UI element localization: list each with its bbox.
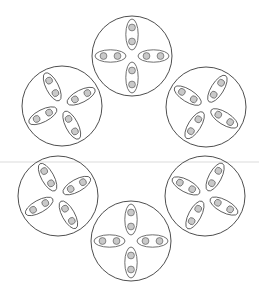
lobe-dot-0 [143,53,150,60]
lobe-dot-1 [100,53,107,60]
lobe-group-2 [138,50,169,62]
lobe-ellipse [126,19,138,50]
lobe-group-3 [125,247,137,278]
outer-circle [18,156,98,236]
lobe-dot-0 [128,252,135,259]
lobe-group-2 [202,160,228,193]
lobe-ellipse [182,198,208,231]
outer-circle [165,156,245,236]
lobe-dot-1 [128,209,135,216]
lobe-ellipse [169,173,202,199]
lobe-group-0 [125,204,137,235]
lobe-ellipse [35,161,61,194]
lobe-ellipse [55,198,81,231]
lobe-dot-0 [142,238,149,245]
lobe-dot-1 [128,266,135,273]
cell-units-layer [18,16,246,281]
lobe-ellipse [208,105,241,132]
lobe-dot-1 [129,81,136,88]
outer-circle [166,67,246,147]
lobe-group-1 [182,198,208,231]
lobe-group-3 [207,193,240,219]
lobe-ellipse [126,62,138,93]
lobe-ellipse [23,193,56,219]
lobe-group-2 [137,235,168,247]
lobe-dot-0 [113,238,120,245]
lobe-ellipse [171,82,204,109]
lobe-group-1 [94,235,125,247]
lobe-group-2 [60,173,93,199]
lobe-ellipse [59,109,84,142]
lobe-ellipse [95,50,126,62]
lobe-dot-0 [129,67,136,74]
lobe-group-0 [35,161,61,194]
unit-upper-left [22,66,102,146]
lobe-group-0 [126,19,138,50]
lobe-ellipse [60,173,93,199]
outer-circle [22,66,102,146]
lobe-ellipse [40,70,65,103]
lobe-group-0 [40,70,65,103]
lobe-group-3 [55,198,81,231]
unit-top [92,16,172,96]
figure-canvas [0,0,259,289]
lobe-dot-0 [129,38,136,45]
diagram-svg [0,0,259,289]
lobe-dot-1 [157,53,164,60]
unit-lower-right [165,156,245,236]
lobe-group-3 [208,105,241,132]
unit-upper-right [166,67,246,147]
lobe-ellipse [138,50,169,62]
unit-lower-left [18,156,98,236]
lobe-ellipse [202,160,228,193]
lobe-ellipse [125,204,137,235]
lobe-ellipse [65,84,98,109]
lobe-group-2 [65,84,98,109]
lobe-ellipse [181,109,208,142]
lobe-group-3 [59,109,84,142]
lobe-ellipse [26,103,59,128]
lobe-dot-1 [129,24,136,31]
lobe-dot-1 [99,238,106,245]
unit-bottom [91,201,171,281]
lobe-dot-0 [114,53,121,60]
lobe-group-1 [95,50,126,62]
lobe-group-0 [169,173,202,199]
lobe-group-2 [204,72,231,105]
lobe-group-3 [126,62,138,93]
lobe-dot-0 [128,223,135,230]
lobe-ellipse [207,193,240,219]
lobe-ellipse [137,235,168,247]
lobe-ellipse [204,72,231,105]
lobe-group-1 [181,109,208,142]
lobe-dot-1 [156,238,163,245]
lobe-group-0 [171,82,204,109]
lobe-ellipse [94,235,125,247]
lobe-group-1 [26,103,59,128]
lobe-group-1 [23,193,56,219]
lobe-ellipse [125,247,137,278]
